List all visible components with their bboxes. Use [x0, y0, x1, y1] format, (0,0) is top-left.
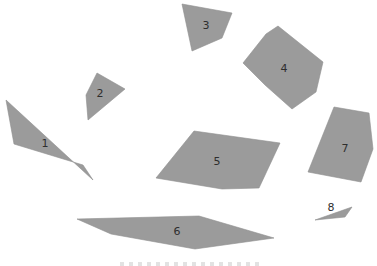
polygon-group-1: 1	[6, 100, 93, 180]
polygon-group-4: 4	[243, 26, 323, 109]
polygon-group-2: 2	[86, 73, 125, 120]
polygon-label-5: 5	[214, 155, 221, 168]
polygon-group-8: 8	[315, 201, 352, 221]
polygon-diagram: 1 2 3 4 5 6 7 8	[0, 0, 377, 266]
polygon-label-4: 4	[281, 62, 288, 75]
polygon-label-1: 1	[42, 137, 49, 150]
polygon-2	[86, 73, 125, 120]
polygon-label-6: 6	[174, 225, 181, 238]
polygon-group-7: 7	[308, 107, 373, 182]
polygon-group-3: 3	[182, 4, 232, 51]
polygon-group-5: 5	[156, 131, 280, 189]
polygon-label-2: 2	[97, 87, 104, 100]
polygon-label-7: 7	[342, 142, 349, 155]
polygon-label-3: 3	[203, 19, 210, 32]
polygon-group-6: 6	[77, 216, 274, 249]
polygon-1	[6, 100, 93, 180]
polygon-7	[308, 107, 373, 182]
cropped-caption-remnant	[120, 262, 260, 266]
polygon-label-8: 8	[328, 201, 335, 214]
